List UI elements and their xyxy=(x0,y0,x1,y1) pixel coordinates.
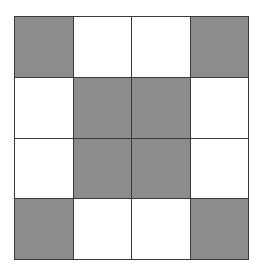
grid-cell-r0-c1-empty xyxy=(74,17,132,77)
grid-cell-r3-c2-empty xyxy=(132,199,190,259)
grid-cell-r2-c0-empty xyxy=(15,139,73,199)
grid-cell-r0-c2-empty xyxy=(132,17,190,77)
grid-cell-r3-c1-empty xyxy=(74,199,132,259)
grid-cell-r1-c3-empty xyxy=(191,78,249,138)
shaded-grid xyxy=(14,16,249,260)
grid-cell-r2-c1-shaded xyxy=(74,139,132,199)
grid-cell-r1-c1-shaded xyxy=(74,78,132,138)
grid-cell-r1-c2-shaded xyxy=(132,78,190,138)
diagram-canvas xyxy=(0,0,262,274)
grid-cell-r3-c3-shaded xyxy=(191,199,249,259)
grid-cell-r2-c2-shaded xyxy=(132,139,190,199)
grid-cell-r0-c0-shaded xyxy=(15,17,73,77)
grid-cell-r3-c0-shaded xyxy=(15,199,73,259)
grid-cell-r2-c3-empty xyxy=(191,139,249,199)
grid-cell-r0-c3-shaded xyxy=(191,17,249,77)
grid-cell-r1-c0-empty xyxy=(15,78,73,138)
